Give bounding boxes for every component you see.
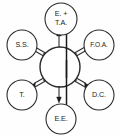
central-hub: [40, 47, 80, 87]
node-eta-label-line1: E. +: [55, 9, 68, 18]
diagram-canvas: E. + T.A. S.S. F.O.A. T. D.C. E.E.: [0, 0, 120, 137]
node-ee[interactable]: E.E.: [46, 104, 76, 134]
node-t-label: T.: [19, 90, 24, 99]
node-foa[interactable]: F.O.A.: [84, 30, 114, 60]
node-eta[interactable]: E. + T.A.: [45, 3, 77, 35]
connector-ee-to-hub-arrowhead-down: [57, 97, 62, 103]
hub-spoke-diagram: E. + T.A. S.S. F.O.A. T. D.C. E.E.: [0, 0, 120, 137]
node-dc[interactable]: D.C.: [84, 80, 114, 110]
node-eta-label-line2: T.A.: [55, 18, 67, 27]
node-foa-label: F.O.A.: [90, 41, 108, 48]
node-ee-label: E.E.: [54, 114, 67, 123]
node-ss-label: S.S.: [15, 40, 28, 49]
node-ss[interactable]: S.S.: [7, 30, 37, 60]
node-t[interactable]: T.: [7, 80, 37, 110]
node-dc-label: D.C.: [92, 90, 106, 99]
